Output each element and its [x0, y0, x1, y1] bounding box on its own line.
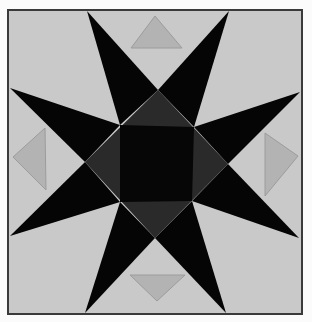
quilt-image-canvas [0, 0, 312, 322]
quilt-block-star [0, 0, 312, 322]
center-square [120, 125, 194, 202]
